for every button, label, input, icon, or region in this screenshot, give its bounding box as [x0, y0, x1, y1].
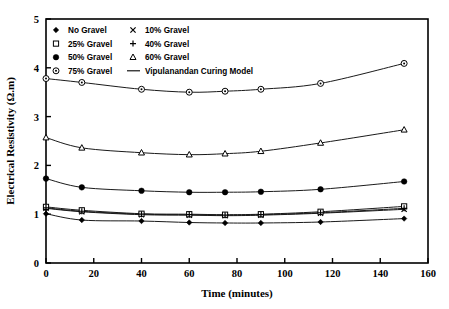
data-point	[139, 86, 145, 92]
x-tick-label: 40	[136, 268, 147, 279]
legend-label: No Gravel	[68, 26, 107, 35]
legend-label: Vipulanandan Curing Model	[145, 67, 253, 76]
x-tick-label: 160	[420, 268, 436, 279]
legend-label: 75% Gravel	[68, 67, 112, 76]
data-point	[43, 176, 49, 182]
data-point	[258, 86, 264, 92]
data-point	[258, 189, 264, 195]
y-tick-label: 2	[34, 160, 39, 171]
electrical-resistivity-vs-time-chart: 020406080100120140160 012345 Time (minut…	[0, 0, 449, 309]
y-tick-label: 3	[34, 112, 39, 123]
legend-marker-circle-dot	[53, 68, 59, 74]
x-tick-label: 120	[325, 268, 341, 279]
x-tick-label: 100	[277, 268, 293, 279]
data-point	[401, 60, 407, 66]
legend-marker-open-square	[53, 41, 58, 46]
y-tick-label: 4	[34, 63, 40, 74]
data-point	[401, 179, 407, 185]
legend-item-vipulanandan-curing-model: Vipulanandan Curing Model	[127, 67, 253, 76]
x-tick-label: 140	[372, 268, 388, 279]
y-tick-label: 1	[34, 209, 39, 220]
x-tick-label: 60	[184, 268, 195, 279]
data-point	[186, 89, 192, 95]
data-point	[222, 189, 228, 195]
legend-marker-filled-circle	[53, 54, 59, 60]
x-tick-label: 20	[89, 268, 100, 279]
data-point	[139, 188, 145, 194]
y-tick-label: 5	[34, 14, 39, 25]
chart-figure: 020406080100120140160 012345 Time (minut…	[0, 0, 449, 309]
data-point	[79, 185, 85, 191]
x-tick-label: 80	[232, 268, 243, 279]
legend-label: 50% Gravel	[68, 53, 112, 62]
legend-label: 25% Gravel	[68, 40, 112, 49]
x-axis-title: Time (minutes)	[201, 287, 273, 300]
data-point	[79, 79, 85, 85]
legend-label: 60% Gravel	[145, 53, 189, 62]
data-point	[43, 76, 49, 82]
data-point	[318, 187, 324, 193]
legend-label: 40% Gravel	[145, 40, 189, 49]
data-point	[318, 80, 324, 86]
y-tick-label: 0	[34, 258, 39, 269]
x-tick-label: 0	[43, 268, 48, 279]
data-point	[222, 88, 228, 94]
data-point	[186, 189, 192, 195]
y-axis-title: Electrical Resistivity (Ω.m)	[4, 77, 17, 205]
legend-label: 10% Gravel	[145, 26, 189, 35]
